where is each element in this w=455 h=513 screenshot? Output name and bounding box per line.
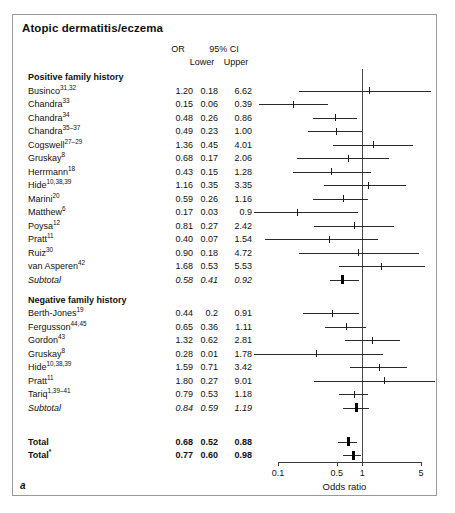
point-estimate-marker (332, 310, 333, 317)
ci-upper-value: 3.35 (220, 180, 252, 191)
ci-upper-value: 2.81 (220, 335, 252, 346)
ci-upper-value: 4.72 (220, 248, 252, 259)
table-row: Ruiz300.900.184.72 (0, 248, 270, 262)
ci-upper-value: 5.53 (220, 261, 252, 272)
ci-lower-value: 0.26 (186, 113, 218, 124)
study-label: Ruiz30 (28, 248, 163, 259)
study-label: Pratt11 (28, 376, 163, 387)
x-axis-tick-label: 5 (401, 468, 441, 478)
x-axis-title: Odds ratio (252, 481, 437, 492)
point-estimate-marker (368, 182, 369, 189)
study-label: Chandra34 (28, 113, 163, 124)
point-estimate-marker (373, 141, 374, 148)
point-estimate-marker (331, 168, 332, 175)
ci-lower-value: 0.59 (186, 403, 218, 414)
confidence-interval-bar (313, 199, 368, 200)
point-estimate-marker (369, 87, 370, 94)
x-axis-tick-label: 1 (342, 468, 382, 478)
study-label: Businco31,32 (28, 86, 163, 97)
ci-lower-value: 0.62 (186, 335, 218, 346)
ci-upper-value: 3.42 (220, 362, 252, 373)
ci-upper-value: 1.16 (220, 194, 252, 205)
point-estimate-marker (354, 222, 355, 229)
table-row: Matthew60.170.030.9 (0, 207, 270, 221)
ci-lower-value: 0.36 (186, 322, 218, 333)
confidence-interval-bar (325, 327, 366, 328)
ci-lower-value: 0.23 (186, 126, 218, 137)
point-estimate-marker (329, 236, 330, 243)
table-row: Total0.680.520.88 (0, 437, 270, 451)
ci-lower-value: 0.18 (186, 248, 218, 259)
table-row: Hide10,38,391.160.353.35 (0, 180, 270, 194)
point-estimate-marker (341, 275, 344, 284)
ci-lower-value: 0.60 (186, 450, 218, 461)
ci-lower-value: 0.45 (186, 140, 218, 151)
study-label: Subtotal (28, 403, 163, 414)
ci-upper-value: 0.91 (220, 308, 252, 319)
table-row: Chandra35–370.490.231.00 (0, 126, 270, 140)
x-axis-tick (278, 462, 279, 466)
group-heading: Positive family history (0, 72, 270, 86)
study-label: Marini20 (28, 194, 163, 205)
study-label: Fergusson44,45 (28, 322, 163, 333)
forest-plot-area (252, 40, 437, 460)
ci-lower-value: 0.06 (186, 99, 218, 110)
study-label: Poysa12 (28, 221, 163, 232)
table-row: Hide10,38,391.590.713.42 (0, 362, 270, 376)
study-label: Berth-Jones19 (28, 308, 163, 319)
study-label: Subtotal (28, 275, 163, 286)
ci-lower-value: 0.71 (186, 362, 218, 373)
ci-upper-value: 4.01 (220, 140, 252, 151)
ci-lower-value: 0.41 (186, 275, 218, 286)
study-label: Total (28, 437, 163, 448)
study-label: Gordon43 (28, 335, 163, 346)
ci-lower-value: 0.07 (186, 234, 218, 245)
point-estimate-marker (358, 249, 359, 256)
study-label: Hide10,38,39 (28, 180, 163, 191)
ci-lower-value: 0.27 (186, 221, 218, 232)
table-row: Gruskay80.280.011.78 (0, 349, 270, 363)
ci-upper-value: 6.62 (220, 86, 252, 97)
ci-lower-value: 0.03 (186, 207, 218, 218)
table-row: Tariq1,39–410.790.531.18 (0, 389, 270, 403)
point-estimate-marker (335, 114, 336, 121)
study-label: Total* (28, 450, 163, 461)
point-estimate-marker (372, 337, 373, 344)
study-label: Tariq1,39–41 (28, 389, 163, 400)
ci-upper-value: 1.54 (220, 234, 252, 245)
confidence-interval-bar (297, 158, 388, 159)
table-row: Pratt111.800.279.01 (0, 376, 270, 390)
table-row: Businco31,321.200.186.62 (0, 86, 270, 100)
ci-upper-value: 0.9 (220, 207, 252, 218)
study-label: Gruskay8 (28, 349, 163, 360)
confidence-interval-bar (265, 239, 378, 240)
study-label: Chandra33 (28, 99, 163, 110)
table-row: Fergusson44,450.650.361.11 (0, 322, 270, 336)
ci-lower-value: 0.53 (186, 261, 218, 272)
ci-upper-value: 1.18 (220, 389, 252, 400)
group-heading-label: Negative family history (28, 295, 163, 306)
group-heading-label: Positive family history (28, 72, 163, 83)
confidence-interval-bar (314, 381, 435, 382)
x-axis-tick-label: 0.1 (258, 468, 298, 478)
ci-upper-value: 2.42 (220, 221, 252, 232)
table-row: Cogswell27–291.360.454.01 (0, 140, 270, 154)
ci-upper-value: 0.39 (220, 99, 252, 110)
study-label: Matthew6 (28, 207, 163, 218)
ci-upper-value: 0.86 (220, 113, 252, 124)
x-axis-tick (362, 462, 363, 466)
x-axis-tick (421, 462, 422, 466)
confidence-interval-bar (330, 280, 360, 281)
group-heading: Negative family history (0, 295, 270, 309)
confidence-interval-bar (254, 212, 358, 213)
ci-upper-value: 0.88 (220, 437, 252, 448)
study-label: Cogswell27–29 (28, 140, 163, 151)
point-estimate-marker (316, 350, 317, 357)
point-estimate-marker (343, 195, 344, 202)
ci-lower-value: 0.18 (186, 86, 218, 97)
table-row: Chandra330.150.060.39 (0, 99, 270, 113)
ci-lower-value: 0.17 (186, 153, 218, 164)
ci-lower-value: 0.26 (186, 194, 218, 205)
ci-lower-value: 0.53 (186, 389, 218, 400)
table-row: Herrmann180.430.151.28 (0, 167, 270, 181)
